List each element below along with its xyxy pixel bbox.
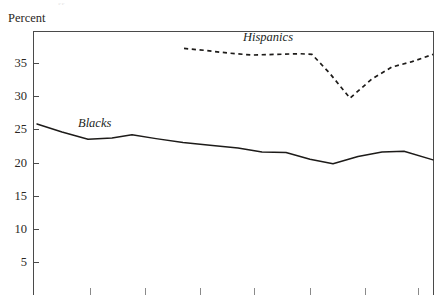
series-label-blacks: Blacks (78, 117, 111, 130)
chart-figure: ss Percent 5101520253035 Blacks Hispanic… (0, 0, 442, 295)
series-line-blacks (37, 124, 433, 164)
series-label-hispanics: Hispanics (243, 31, 293, 44)
series-line-hispanics (184, 48, 433, 98)
series-lines (0, 0, 442, 295)
